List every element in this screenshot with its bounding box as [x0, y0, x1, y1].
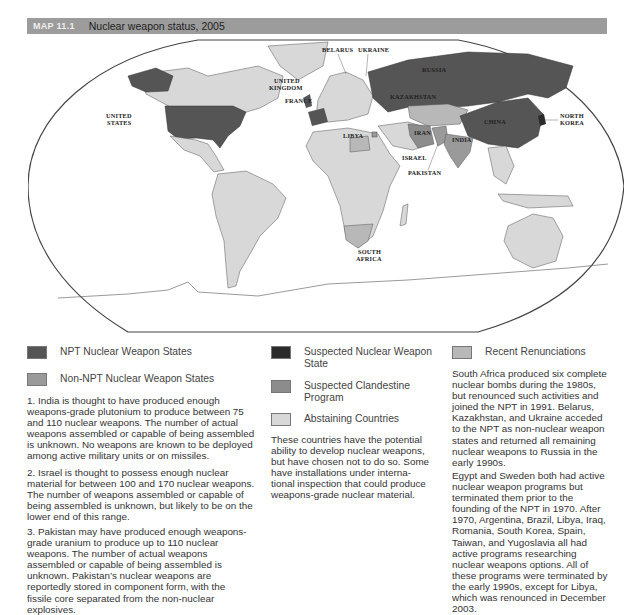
label-united-states-2: STATES [107, 119, 132, 126]
label-iran: IRAN [414, 129, 431, 136]
text-line: but renounced such activities and [452, 390, 607, 401]
text-line: nuclear weapons to Russia in the [452, 446, 607, 457]
text-line: 3. Pakistan may have produced enough wea… [27, 526, 247, 537]
note-south-africa: South Africa produced six complete nucle… [452, 368, 607, 468]
text-line: founding of the NPT in 1970. After [452, 503, 607, 514]
label-south-africa-1: SOUTH [358, 248, 381, 255]
legend-recent-renunciations: Recent Renunciations [452, 346, 586, 359]
world-map: UNITED STATES UNITED KINGDOM FRANCE BELA… [28, 36, 624, 334]
text-line: have installations under interna- [271, 467, 429, 478]
text-line: fissile core separated from the non-nucl… [27, 593, 247, 604]
label-russia: RUSSIA [422, 66, 447, 73]
text-line: 2. Israel is thought to possess enough n… [27, 467, 254, 478]
text-line: nuclear weapons options. All of [452, 559, 607, 570]
map-title-bar: MAP 11.1 Nuclear weapon status, 2005 [27, 18, 607, 34]
world-map-svg: UNITED STATES UNITED KINGDOM FRANCE BELA… [28, 36, 624, 334]
text-line: The number of weapons assembled or capab… [27, 489, 254, 500]
text-line: grade uranium to produce up to 110 nucle… [27, 537, 247, 548]
legend-label-abstaining: Abstaining Countries [304, 413, 399, 425]
label-north-korea-1: NORTH [560, 112, 584, 119]
label-france: FRANCE [285, 97, 312, 104]
text-line: reportedly stored in component form, wit… [27, 581, 247, 592]
label-china: CHINA [484, 118, 506, 125]
text-line: unknown. Pakistan’s nuclear weapons are [27, 570, 247, 581]
label-pakistan: PAKISTAN [408, 169, 441, 176]
label-kazakhstan: KAZAKHSTAN [390, 93, 437, 100]
swatch-suspected-nuclear [271, 346, 291, 359]
text-line: states and returned all remaining [452, 435, 607, 446]
text-line: weapons-grade nuclear material. [271, 489, 429, 500]
text-line: These countries have the potential [271, 434, 429, 445]
text-line: material for between 100 and 170 nuclear… [27, 478, 254, 489]
text-line: weapons-grade plutonium to produce betwe… [27, 406, 254, 417]
text-line: Program [304, 392, 343, 403]
swatch-abstaining [271, 413, 291, 426]
text-line: tional inspection that could produce [271, 478, 429, 489]
text-line: ability to develop nuclear weapons, [271, 445, 429, 456]
text-line: Romania, South Korea, Spain, [452, 525, 607, 536]
note-abstaining: These countries have the potential abili… [271, 434, 429, 501]
text-line: 1. India is thought to have produced eno… [27, 395, 254, 406]
text-line: among active military units or on missil… [27, 450, 254, 461]
text-line: weapons assembled or capable of being as… [27, 428, 254, 439]
swatch-non-npt [27, 373, 47, 386]
text-line: these programs were terminated by [452, 570, 607, 581]
legend-npt: NPT Nuclear Weapon States [27, 346, 192, 359]
text-line: explosives. [27, 604, 247, 615]
text-line: early 1990s. [452, 457, 607, 468]
text-line: lower end of this range. [27, 511, 254, 522]
text-line: Kazakhstan, and Ukraine acceded [452, 412, 607, 423]
text-line: terminated them prior to the [452, 492, 607, 503]
label-india: INDIA [452, 136, 472, 143]
label-uk-1: UNITED [274, 77, 300, 84]
legend-label-non-npt: Non-NPT Nuclear Weapon States [60, 373, 214, 385]
text-line: Egypt and Sweden both had active [452, 470, 607, 481]
label-israel: ISRAEL [402, 154, 427, 161]
swatch-npt [27, 346, 47, 359]
legend-label-suspected-clandestine: Suspected Clandestine Program [304, 380, 410, 404]
text-line: to the NPT as non-nuclear weapon [452, 423, 607, 434]
map-number: MAP 11.1 [33, 21, 75, 31]
label-uk-2: KINGDOM [269, 84, 303, 91]
text-line: weapons. The number of actual weapons [27, 548, 247, 559]
legend-abstaining: Abstaining Countries [271, 413, 399, 426]
label-belarus: BELARUS [322, 46, 353, 53]
text-line: nuclear weapon programs but [452, 481, 607, 492]
text-line: nuclear bombs during the 1980s, [452, 379, 607, 390]
text-line: Suspected Nuclear Weapon [304, 346, 432, 357]
text-line: State [304, 358, 328, 369]
text-line: but have chosen not to do so. Some [271, 456, 429, 467]
text-line: 2003. [452, 603, 607, 614]
text-line: Suspected Clandestine [304, 380, 410, 391]
label-ukraine: UKRAINE [358, 46, 389, 53]
swatch-recent [452, 346, 472, 359]
text-line: active programs researching [452, 548, 607, 559]
legend-label-npt: NPT Nuclear Weapon States [60, 346, 192, 358]
text-line: and 110 nuclear weapons. The number of a… [27, 417, 254, 428]
map-title: Nuclear weapon status, 2005 [89, 20, 225, 32]
note-india: 1. India is thought to have produced eno… [27, 395, 254, 462]
label-united-states-1: UNITED [106, 112, 132, 119]
note-pakistan: 3. Pakistan may have produced enough wea… [27, 526, 247, 615]
note-israel: 2. Israel is thought to possess enough n… [27, 467, 254, 522]
note-egypt-sweden: Egypt and Sweden both had active nuclear… [452, 470, 607, 614]
legend-suspected-nuclear: Suspected Nuclear Weapon State [271, 346, 432, 370]
legend-suspected-clandestine: Suspected Clandestine Program [271, 380, 410, 404]
israel-marker [372, 132, 377, 137]
text-line: assembled or capable of being assembled … [27, 559, 247, 570]
legend-non-npt: Non-NPT Nuclear Weapon States [27, 373, 214, 386]
text-line: Taiwan, and Yugoslavia all had [452, 537, 607, 548]
legend-label-suspected-nuclear: Suspected Nuclear Weapon State [304, 346, 432, 370]
label-north-korea-2: KOREA [560, 119, 584, 126]
label-libya: LIBYA [343, 132, 364, 139]
legend-label-recent: Recent Renunciations [485, 346, 586, 358]
text-line: the early 1990s, except for Libya, [452, 581, 607, 592]
text-line: 1970, Argentina, Brazil, Libya, Iraq, [452, 514, 607, 525]
text-line: being assembled is unknown, but likely t… [27, 500, 254, 511]
text-line: is unknown. No weapons are known to be d… [27, 439, 254, 450]
swatch-suspected-clandestine [271, 380, 291, 393]
text-line: joined the NPT in 1991. Belarus, [452, 401, 607, 412]
text-line: which was renounced in December [452, 592, 607, 603]
label-south-africa-2: AFRICA [356, 255, 382, 262]
text-line: South Africa produced six complete [452, 368, 607, 379]
